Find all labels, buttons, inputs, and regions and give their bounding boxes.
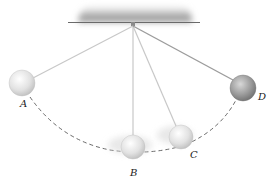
pivot	[131, 22, 135, 26]
label-d: D	[257, 91, 266, 102]
ball-b	[121, 135, 145, 159]
ceiling	[68, 3, 200, 26]
strings	[33, 26, 233, 136]
label-a: A	[19, 98, 27, 109]
ball-a	[9, 70, 35, 96]
string-d	[133, 26, 233, 80]
ball-d	[230, 75, 256, 101]
pendulum-diagram: A B C D	[0, 0, 274, 184]
ball-c	[169, 125, 193, 149]
label-b: B	[129, 167, 137, 178]
string-c	[133, 26, 176, 126]
string-a	[33, 26, 133, 78]
label-c: C	[190, 149, 198, 160]
ceiling-shade	[78, 3, 192, 22]
